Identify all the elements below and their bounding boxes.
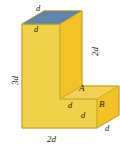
notch-height-label: d	[81, 111, 85, 120]
top-front-edge-label: d	[34, 25, 38, 34]
upper-right-height-label: 2d	[91, 47, 100, 56]
notch-width-label: d	[68, 101, 72, 110]
front-face	[22, 24, 97, 128]
bottom-width-label: 2d	[47, 135, 56, 144]
vertex-b-label: B	[99, 100, 105, 109]
lower-right-depth-label: d	[105, 124, 109, 133]
l-shaped-solid-figure: d d 2d 3d A d d B d 2d	[0, 0, 120, 152]
vertex-a-label: A	[79, 84, 85, 93]
top-depth-label: d	[36, 4, 40, 13]
left-height-label: 3d	[11, 76, 20, 85]
